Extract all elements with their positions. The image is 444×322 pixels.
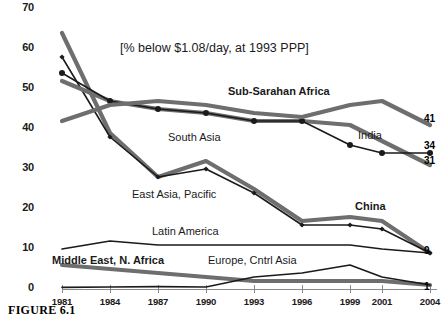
figure-container: 70 60 50 40 30 20 10 0 [% below $1.08/da… [0,0,444,322]
x-axis-label-1990: 1990 [186,296,226,307]
end-value-34: 34 [424,140,435,151]
data-point [203,166,208,171]
data-point [379,226,384,231]
series-layer [59,33,433,287]
series-line-latin-america [62,241,430,253]
series-label-south-asia: South Asia [168,131,221,143]
end-value-41: 41 [424,113,435,124]
x-axis-label-1996: 1996 [282,296,322,307]
data-point [59,70,65,76]
end-value-9: 9 [424,245,430,256]
series-label-middle-east-n-africa: Middle East, N. Africa [52,254,164,266]
data-point [347,222,352,227]
x-axis-label-2001: 2001 [362,296,402,307]
series-label-latin-america: Latin America [152,225,219,237]
x-axis-label-2004: 2004 [410,296,444,307]
data-point [203,110,209,116]
end-value-31: 31 [424,155,435,166]
x-axis-label-1993: 1993 [234,296,274,307]
series-label-sub-sarahan-africa: Sub-Sarahan Africa [228,85,330,97]
data-point [347,142,353,148]
x-axis-label-1984: 1984 [90,296,130,307]
data-point [155,106,161,112]
data-point [379,150,385,156]
series-label-china: China [355,200,386,212]
figure-caption: FIGURE 6.1 [8,303,76,318]
data-point [251,118,257,124]
chart-title: [% below $1.08/day, at 1993 PPP] [120,41,309,55]
end-value-1: 1 [424,281,430,292]
series-label-india: India [358,129,382,141]
x-axis-label-1987: 1987 [138,296,178,307]
series-label-east-asia-pacific: East Asia, Pacific [132,188,216,200]
series-label-europe-cntrl-asia: Europe, Cntrl Asia [208,254,297,266]
